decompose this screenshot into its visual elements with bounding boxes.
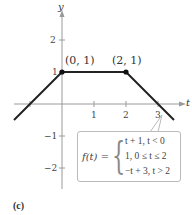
case-2: 1, 0 ≤ t ≤ 2 [125,151,167,161]
brace-icon: { [112,132,125,178]
x-tick-label-1: 1 [91,110,97,120]
case-3: −t + 3, t > 2 [125,166,170,176]
x-axis-label: t [186,98,190,108]
y-axis-label: y [58,2,64,12]
point-label-0-1: (0, 1) [65,56,95,66]
plot-area [0,0,192,215]
y-tick-label-m1: −1 [44,131,57,141]
figure-caption: (c) [13,200,24,211]
x-tick-label-2: 2 [123,110,129,120]
function-name: f(t) = [82,151,109,162]
y-tick-label-1: 1 [52,67,58,77]
y-tick-label-m2: −2 [44,163,57,173]
x-tick-label-3: 3 [155,110,161,120]
y-tick-label-2: 2 [50,35,56,45]
formula-callout: f(t) = { t + 1, t < 0 1, 0 ≤ t ≤ 2 −t + … [77,131,181,182]
case-1: t + 1, t < 0 [125,136,165,146]
point-label-2-1: (2, 1) [112,56,142,66]
point-0-1 [59,69,64,74]
x-axis-arrow-icon [179,102,186,107]
point-2-1 [123,69,128,74]
